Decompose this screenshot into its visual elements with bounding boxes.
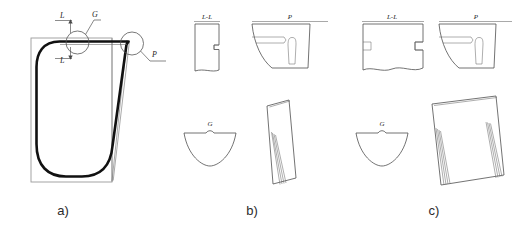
panel-c-view-p: P	[439, 13, 512, 68]
section-label-lower: L	[59, 56, 65, 65]
panel-c-section-ll-shape	[363, 24, 423, 70]
panel-b-view-p: P	[252, 13, 328, 68]
panel-a: L L G P a)	[31, 10, 166, 219]
caption-a: a)	[57, 203, 69, 218]
panel-c-view-p-shape	[439, 24, 496, 68]
callout-p-circle	[121, 32, 144, 55]
panel-b-detail-g: G	[184, 120, 236, 166]
technical-figure: L L G P a) L-L	[0, 0, 523, 233]
panel-a-reference-frame	[31, 38, 112, 182]
figure-canvas: L L G P a) L-L	[0, 0, 523, 233]
callout-g: G	[66, 10, 101, 55]
panel-c-tilted-strip-shape	[432, 96, 504, 185]
panel-b-detail-g-shape	[184, 131, 236, 166]
section-label-upper: L	[59, 11, 65, 20]
caption-b: b)	[246, 203, 258, 218]
panel-c-section-ll: L-L	[362, 13, 424, 70]
panel-b-section-ll-label: L-L	[201, 13, 212, 21]
panel-b-detail-g-label: G	[207, 120, 212, 128]
caption-c: c)	[429, 203, 440, 218]
panel-c-view-p-label: P	[473, 13, 479, 21]
section-mark-upper: L	[55, 11, 73, 33]
panel-c-detail-g-label: G	[379, 120, 384, 128]
panel-b-tilted-strip	[267, 100, 296, 185]
panel-c-section-ll-label: L-L	[386, 13, 397, 21]
panel-c-section-ll-notch-right	[415, 42, 423, 50]
section-mark-lower: L	[55, 47, 73, 65]
panel-a-tilt-edge	[113, 41, 129, 181]
panel-b-view-p-label: P	[287, 13, 293, 21]
panel-b: L-L P G b)	[184, 13, 328, 218]
panel-b-section-ll-notch	[214, 45, 219, 50]
callout-p-label: P	[151, 50, 157, 59]
panel-b-section-ll-shape	[195, 24, 219, 71]
panel-b-section-ll: L-L	[194, 13, 220, 71]
panel-c-tilted-strip	[432, 96, 504, 185]
panel-c-detail-g-shape	[356, 131, 408, 166]
callout-g-label: G	[92, 10, 98, 19]
panel-c-detail-g: G	[356, 120, 408, 166]
panel-c: L-L P G	[356, 13, 512, 218]
panel-b-view-p-shape	[252, 24, 310, 68]
